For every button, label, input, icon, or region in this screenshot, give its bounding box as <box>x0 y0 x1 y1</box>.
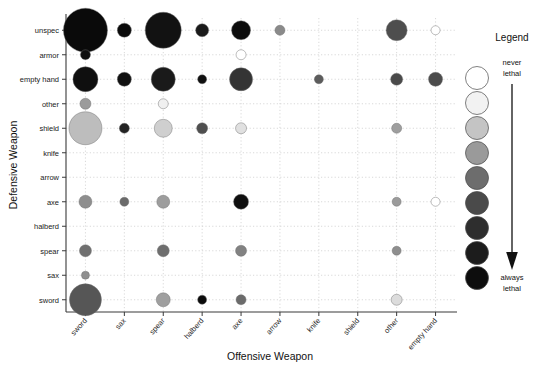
x-tick-label: halberd <box>182 316 205 341</box>
legend-swatch <box>466 67 489 90</box>
bubble-point <box>158 99 168 109</box>
bubble-point <box>80 50 90 60</box>
y-tick-label: empty hand <box>20 75 59 84</box>
bubble-point <box>157 245 169 257</box>
legend-swatch <box>466 242 489 265</box>
bubble-point <box>151 67 175 91</box>
x-tick-label: knife <box>305 316 322 334</box>
bubble-point <box>117 72 131 86</box>
legend-swatch <box>466 142 489 165</box>
y-tick-label: halberd <box>34 222 59 231</box>
bubble-point <box>236 245 247 256</box>
bubble-point <box>119 123 129 133</box>
legend-swatch <box>466 267 489 290</box>
bubble-point <box>73 67 98 92</box>
bubble-point <box>429 72 443 86</box>
bubble-point <box>392 246 401 255</box>
legend-gradient-arrow-icon <box>506 84 518 270</box>
x-tick-label: sax <box>113 316 128 331</box>
bubble-point <box>63 8 107 52</box>
x-tick-label: other <box>382 316 400 335</box>
y-tick-label: sax <box>47 271 59 280</box>
y-tick-label: shield <box>39 124 59 133</box>
legend-swatch <box>466 92 489 115</box>
bubble-point <box>232 21 251 40</box>
y-tick-label: armor <box>39 51 59 60</box>
x-tick-label: arrow <box>264 316 284 336</box>
y-tick-label: arrow <box>40 173 59 182</box>
legend-swatches <box>466 67 489 290</box>
x-axis-tick-labels: swordsaxspearhalberdaxearrowknifeshieldo… <box>69 316 439 352</box>
y-axis-tick-labels: unspecarmorempty handothershieldknifearr… <box>20 26 60 305</box>
bubble-point <box>236 50 246 60</box>
bubble-point <box>197 123 208 134</box>
bubble-point <box>69 284 101 316</box>
x-tick-label: empty hand <box>406 316 439 351</box>
bubble-point <box>145 12 181 48</box>
x-tick-label: shield <box>341 316 361 337</box>
bubble-point <box>157 195 170 208</box>
gridlines <box>66 18 455 312</box>
legend-swatch <box>466 192 489 215</box>
bubble-point <box>69 112 102 145</box>
bubble-point <box>391 294 402 305</box>
y-tick-label: sword <box>39 296 59 305</box>
bubble-point <box>117 23 131 37</box>
bubble-point <box>391 73 403 85</box>
y-tick-label: other <box>42 100 60 109</box>
legend-always-lethal-label-line1: always <box>501 273 524 282</box>
bubble-point <box>236 295 246 305</box>
bubble-point <box>198 75 207 84</box>
bubble-point <box>80 98 91 109</box>
legend-swatch <box>466 167 489 190</box>
bubble-point <box>81 271 89 279</box>
y-tick-label: unspec <box>35 26 59 35</box>
bubble-point <box>392 123 402 133</box>
bubble-point <box>154 119 172 137</box>
legend-never-lethal-label-line1: never <box>503 58 522 67</box>
bubble-point <box>198 295 207 304</box>
y-tick-label: axe <box>47 198 59 207</box>
bubble-point <box>79 195 92 208</box>
y-tick-label: spear <box>40 247 59 256</box>
bubble-point <box>79 245 91 257</box>
legend-swatch <box>466 117 489 140</box>
bubble-point <box>386 20 407 41</box>
bubble-series <box>63 8 442 316</box>
bubble-point <box>230 68 253 91</box>
bubble-point <box>156 293 170 307</box>
x-axis-title: Offensive Weapon <box>227 350 313 362</box>
x-tick-label: axe <box>230 316 245 331</box>
x-tick-label: sword <box>69 316 89 337</box>
bubble-point <box>314 75 323 84</box>
bubble-point <box>236 123 247 134</box>
bubble-point <box>392 197 401 206</box>
legend-swatch <box>466 217 489 240</box>
bubble-point <box>196 24 209 37</box>
bubble-point <box>431 26 440 35</box>
bubble-point <box>234 194 249 209</box>
x-tick-label: spear <box>147 316 167 336</box>
y-axis-title: Defensive Weapon <box>7 121 19 210</box>
legend-title: Legend <box>495 32 528 43</box>
bubble-point <box>120 197 129 206</box>
legend-never-lethal-label-line2: lethal <box>503 69 521 78</box>
chart-canvas: swordsaxspearhalberdaxearrowknifeshieldo… <box>0 0 537 370</box>
bubble-point <box>431 197 440 206</box>
bubble-point <box>275 25 285 35</box>
y-tick-label: knife <box>43 149 59 158</box>
legend-always-lethal-label-line2: lethal <box>503 284 521 293</box>
bubble-chart-figure: swordsaxspearhalberdaxearrowknifeshieldo… <box>0 0 537 370</box>
